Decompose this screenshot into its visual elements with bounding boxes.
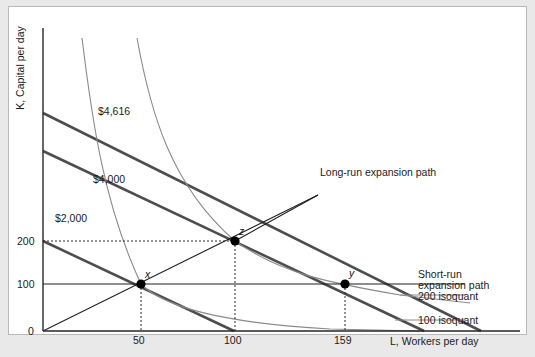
data-point-z-marker[interactable] xyxy=(230,236,239,245)
tick-y-200: 200 xyxy=(17,235,35,247)
tick-x-50: 50 xyxy=(133,334,145,346)
long-run-expansion-path-leader xyxy=(235,195,318,241)
annotation-long-run-expansion-path: Long-run expansion path xyxy=(320,166,436,178)
annotation-isoquant-100: 100 isoquant xyxy=(418,314,478,326)
y-axis-title: K, Capital per day xyxy=(14,8,26,128)
x-axis-title: L, Workers per day xyxy=(390,335,479,347)
tick-origin-0: 0 xyxy=(28,325,34,337)
data-point-label-x: x xyxy=(145,268,150,280)
data-point-y-marker[interactable] xyxy=(340,279,349,288)
figure-root: K, Capital per day L, Workers per day 0 … xyxy=(0,0,535,357)
data-point-x-marker[interactable] xyxy=(136,279,145,288)
tick-y-100: 100 xyxy=(17,278,35,290)
tick-x-100: 100 xyxy=(224,334,242,346)
isocost-label-2000: $2,000 xyxy=(55,212,87,224)
economics-chart-svg xyxy=(0,0,535,357)
isocost-label-4000: $4,000 xyxy=(93,173,125,185)
data-point-label-y: y xyxy=(349,267,354,279)
tick-x-159: 159 xyxy=(334,334,352,346)
data-point-label-z: z xyxy=(239,225,244,237)
annotation-isoquant-200: 200 isoquant xyxy=(418,290,478,302)
isocost-label-4616: $4,616 xyxy=(98,105,130,117)
